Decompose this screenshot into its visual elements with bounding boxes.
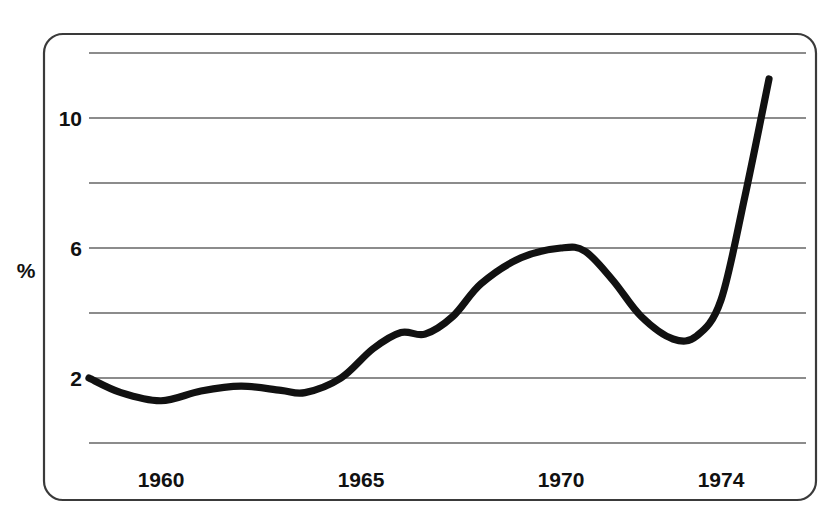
unemployment-rate-line-chart: 10 6 2 % 1960 1965 1970 1974 <box>0 0 839 528</box>
x-tick-label-1970: 1970 <box>538 468 585 491</box>
chart-frame <box>44 34 816 500</box>
x-tick-label-1974: 1974 <box>698 468 745 491</box>
y-tick-label-10: 10 <box>59 107 82 130</box>
y-tick-label-2: 2 <box>70 367 82 390</box>
y-tick-label-6: 6 <box>70 237 82 260</box>
x-tick-label-1960: 1960 <box>138 468 185 491</box>
y-axis-title: % <box>17 259 36 282</box>
x-tick-label-1965: 1965 <box>338 468 385 491</box>
chart-container: 10 6 2 % 1960 1965 1970 1974 <box>0 0 839 528</box>
